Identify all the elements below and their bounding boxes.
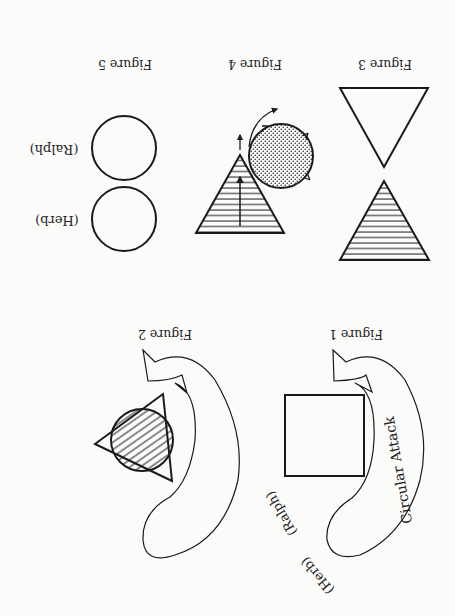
figure-4: Figure 4 <box>196 57 313 233</box>
arrow-label-circular-attack: Circular Attack <box>381 415 416 525</box>
label-herb: (Herb) <box>297 554 337 597</box>
square <box>285 395 364 476</box>
hatched-triangle <box>340 181 429 260</box>
figure-1-caption: Figure 1 <box>329 327 383 342</box>
inverted-triangle <box>340 88 428 167</box>
label-herb: (Herb) <box>35 213 79 228</box>
figure-3-caption: Figure 3 <box>358 57 412 72</box>
figure-2-caption: Figure 2 <box>138 327 192 342</box>
figure-3: Figure 3 <box>340 57 429 260</box>
circle-herb <box>92 187 156 251</box>
label-ralph: (Ralph) <box>30 142 79 157</box>
figure-4-caption: Figure 4 <box>228 57 282 72</box>
figure-1: Figure 1 Circular Attack (Herb) (Ralph) <box>262 327 423 597</box>
figure-5: Figure 5 (Ralph) (Herb) <box>30 57 156 251</box>
diagram-canvas: Figure 3 Figure 4 Figure 5 (Ralph) (Herb… <box>0 0 455 616</box>
circle-ralph <box>92 116 156 180</box>
hatched-circle <box>111 409 173 471</box>
diagram-svg: Figure 3 Figure 4 Figure 5 (Ralph) (Herb… <box>0 0 455 616</box>
figure-5-caption: Figure 5 <box>98 57 152 72</box>
dotted-circle <box>249 124 313 188</box>
label-ralph: (Ralph) <box>262 489 299 539</box>
figure-2: Figure 2 <box>95 327 239 558</box>
curved-arrow-icon <box>327 350 424 557</box>
